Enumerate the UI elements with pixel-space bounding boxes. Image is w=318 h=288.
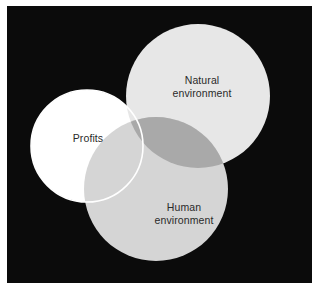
venn-label-human-environment-line1: Human (129, 201, 239, 214)
venn-circles-graphic (7, 6, 312, 283)
venn-label-profits-line1: Profits (48, 132, 128, 145)
venn-label-natural-environment: Natural environment (147, 74, 257, 99)
venn-label-human-environment: Human environment (129, 201, 239, 226)
venn-label-human-environment-line2: environment (129, 214, 239, 227)
venn-label-profits: Profits (48, 132, 128, 145)
venn-label-natural-environment-line1: Natural (147, 74, 257, 87)
venn-diagram-panel: Profits Natural environment Human enviro… (7, 6, 312, 283)
venn-diagram-figure: Profits Natural environment Human enviro… (0, 0, 318, 288)
venn-label-natural-environment-line2: environment (147, 87, 257, 100)
